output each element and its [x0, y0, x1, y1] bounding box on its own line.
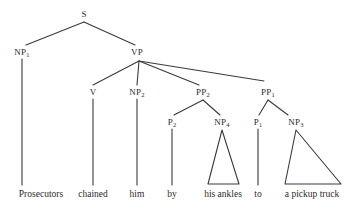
node-label-v: V: [90, 88, 97, 97]
tree-lines-canvas: [0, 0, 352, 211]
node-subscript: 2: [173, 121, 176, 128]
branch-lines: [26, 22, 288, 115]
branch-S-to-NP1: [26, 22, 84, 45]
branch-VP-to-PP1: [139, 61, 264, 81]
branch-S-to-VP: [84, 22, 135, 45]
branch-VP-to-NP2: [137, 61, 139, 85]
terminal-word: by: [167, 190, 177, 200]
node-label-np3: NP3: [288, 118, 303, 127]
node-label-p2: P2: [168, 118, 177, 127]
tri-np3: [285, 130, 341, 184]
node-subscript: 1: [26, 51, 29, 58]
node-label-s: S: [81, 10, 86, 19]
phrase-triangles: [208, 130, 341, 184]
terminal-word: a pickup truck: [285, 190, 339, 200]
node-category: NP: [129, 87, 141, 97]
node-category: V: [90, 87, 97, 97]
node-category: NP: [14, 47, 26, 57]
branch-PP2-to-P2: [174, 100, 203, 115]
node-label-pp1: PP1: [261, 88, 275, 97]
node-category: PP: [261, 87, 271, 97]
node-category: VP: [131, 47, 143, 57]
terminal-word: to: [254, 190, 261, 200]
terminal-word: Prosecutors: [19, 190, 63, 200]
branch-PP1-to-P1: [259, 100, 268, 115]
terminal-word: his ankles: [204, 190, 242, 200]
branch-VP-to-PP2: [139, 61, 199, 85]
node-subscript: 2: [206, 91, 209, 98]
node-category: PP: [196, 87, 206, 97]
node-label-np1: NP1: [14, 48, 29, 57]
node-label-pp2: PP2: [196, 88, 210, 97]
node-label-p1: P1: [254, 118, 263, 127]
branch-VP-to-V: [93, 61, 139, 85]
node-subscript: 2: [141, 91, 144, 98]
tri-np4: [208, 130, 239, 184]
branch-PP2-to-NP4: [203, 100, 220, 115]
terminal-word: chained: [78, 190, 108, 200]
syntax-tree-figure: SNP1VPVNP2PP2PP1P2NP4P1NP3 Prosecutorsch…: [0, 0, 352, 211]
node-category: S: [81, 9, 86, 19]
node-category: NP: [288, 117, 300, 127]
node-subscript: 1: [271, 91, 274, 98]
node-subscript: 4: [226, 121, 229, 128]
node-label-np4: NP4: [214, 118, 229, 127]
branch-PP1-to-NP3: [268, 100, 288, 115]
node-category: NP: [214, 117, 226, 127]
node-subscript: 3: [300, 121, 303, 128]
node-label-vp: VP: [131, 48, 143, 57]
node-subscript: 1: [259, 121, 262, 128]
node-label-np2: NP2: [129, 88, 144, 97]
terminal-word: him: [130, 190, 145, 200]
